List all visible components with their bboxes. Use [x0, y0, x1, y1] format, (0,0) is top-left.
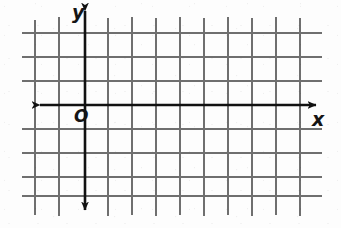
y-axis-label: y	[72, 3, 84, 22]
coordinate-grid-svg	[0, 0, 341, 228]
origin-label: O	[74, 108, 88, 125]
coordinate-plane-figure: y x O	[0, 0, 341, 228]
grid-horizontal-lines	[22, 33, 322, 196]
x-axis-label: x	[312, 110, 324, 129]
